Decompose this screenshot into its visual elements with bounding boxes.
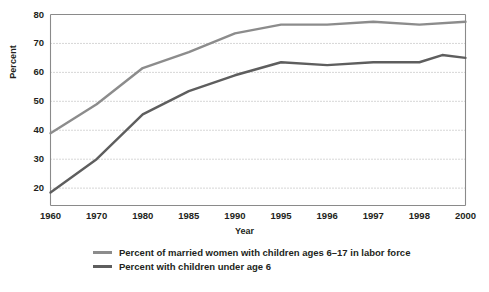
- x-tick-label-1970: 1970: [74, 210, 120, 221]
- legend-swatch-series-0: [93, 251, 112, 254]
- x-tick-label-1985: 1985: [166, 210, 212, 221]
- x-tick-label-1960: 1960: [28, 210, 74, 221]
- x-tick-label-1998: 1998: [396, 210, 442, 221]
- x-tick-label-1980: 1980: [120, 210, 166, 221]
- x-tick-label-1997: 1997: [350, 210, 396, 221]
- line-chart: Percent 80706050403020 19601970198019851…: [0, 0, 489, 292]
- series-lines: [51, 22, 466, 193]
- legend-item-0[interactable]: Percent of married women with children a…: [93, 246, 489, 259]
- series-line-0: [51, 22, 466, 133]
- legend: Percent of married women with children a…: [93, 246, 489, 274]
- legend-label-series-0: Percent of married women with children a…: [119, 247, 410, 258]
- x-tick-label-2000: 2000: [443, 210, 489, 221]
- x-axis-title: Year: [0, 226, 489, 236]
- legend-swatch-series-1: [93, 265, 112, 268]
- series-line-1: [51, 55, 466, 192]
- x-tick-label-1996: 1996: [304, 210, 350, 221]
- legend-item-1[interactable]: Percent with children under age 6: [93, 260, 489, 273]
- gridlines: [51, 43, 466, 188]
- x-tick-label-1995: 1995: [258, 210, 304, 221]
- x-tick-label-1990: 1990: [212, 210, 258, 221]
- legend-label-series-1: Percent with children under age 6: [119, 261, 271, 272]
